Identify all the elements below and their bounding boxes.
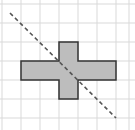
cross-shape <box>21 42 116 99</box>
symmetry-diagram <box>0 0 135 130</box>
